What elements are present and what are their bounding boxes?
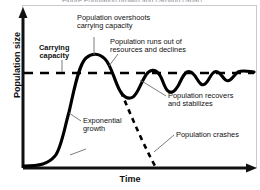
leader-exponential bbox=[69, 113, 81, 121]
population-curve bbox=[24, 54, 254, 166]
leader-runs-out bbox=[109, 54, 118, 66]
figure-population-carrying-capacity: Figure Population growth and carrying ca… bbox=[0, 0, 260, 190]
y-axis-label: Population size bbox=[12, 22, 22, 108]
population-crash-line bbox=[121, 92, 155, 166]
annotation-carrying-capacity: Carrying capacity bbox=[39, 44, 69, 60]
leader-decorative bbox=[70, 149, 86, 155]
annotation-runs-out: Population runs out of resources and dec… bbox=[110, 38, 186, 54]
leader-crashes bbox=[154, 135, 174, 152]
annotation-overshoot: Population overshoots carrying capacity bbox=[77, 14, 150, 30]
annotation-exponential-growth: Exponential growth bbox=[83, 117, 122, 133]
x-axis-label: Time bbox=[0, 174, 260, 184]
x-axis bbox=[23, 164, 257, 173]
annotation-recovers: Population recovers and stabilizes bbox=[168, 92, 233, 108]
leader-lines bbox=[62, 37, 174, 155]
annotation-population-crashes: Population crashes bbox=[176, 131, 239, 139]
